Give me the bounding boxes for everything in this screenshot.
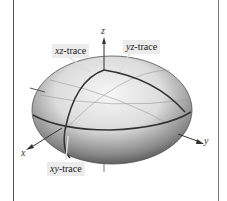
yz-suffix: -trace bbox=[134, 41, 157, 52]
y-axis-label: y bbox=[204, 135, 208, 146]
x-axis-label: x bbox=[21, 147, 25, 158]
z-axis-arrow-icon bbox=[102, 37, 106, 44]
ellipsoid-figure bbox=[0, 0, 227, 201]
xy-suffix: -trace bbox=[59, 163, 82, 174]
xy-trace-label: xy-trace bbox=[47, 162, 85, 176]
z-axis-label: z bbox=[101, 25, 105, 36]
y-axis-arrow-icon bbox=[196, 139, 204, 144]
xz-trace-label: xz-trace bbox=[52, 44, 89, 58]
xy-var: xy bbox=[50, 163, 59, 174]
yz-trace-label: yz-trace bbox=[123, 40, 160, 54]
x-axis-arrow-icon bbox=[26, 144, 34, 150]
xz-suffix: -trace bbox=[63, 45, 86, 56]
